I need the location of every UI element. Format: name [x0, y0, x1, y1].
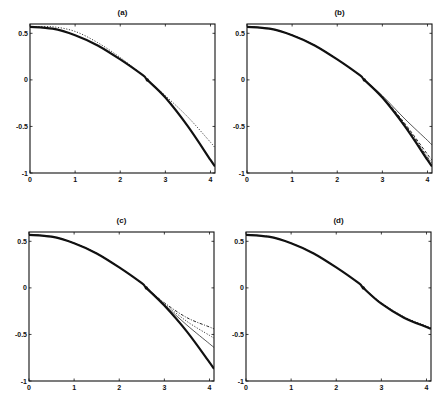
series-approx: [30, 26, 215, 147]
axes-box: [29, 232, 214, 381]
x-tick-label: 1: [72, 384, 76, 391]
y-tick-label: -1: [22, 170, 28, 177]
x-tick-label: 3: [380, 176, 384, 183]
x-tick-label: 2: [334, 384, 338, 391]
y-tick-label: 0: [240, 284, 244, 291]
x-tick-label: 0: [28, 176, 32, 183]
y-tick-label: -1: [238, 378, 244, 385]
x-tick-label: 1: [73, 176, 77, 183]
point-marker: [146, 78, 149, 81]
subplot-title: (a): [118, 8, 128, 17]
x-tick-label: 2: [118, 176, 122, 183]
series-approx-3: [247, 27, 432, 163]
subplot-b: (b)012340.50-0.5-1: [233, 8, 432, 183]
x-tick-label: 0: [27, 384, 31, 391]
y-tick-label: -1: [21, 378, 27, 385]
x-tick-label: 4: [209, 176, 213, 183]
x-tick-label: 4: [425, 384, 429, 391]
plot-lines: [29, 235, 214, 369]
series-approx-3: [29, 235, 214, 329]
axes-box: [30, 24, 215, 173]
point-marker: [145, 286, 148, 289]
y-tick-label: -0.5: [233, 123, 245, 130]
x-tick-label: 3: [162, 384, 166, 391]
y-tick-label: 0.5: [18, 30, 28, 37]
series-exact: [247, 27, 432, 167]
x-tick-label: 2: [335, 176, 339, 183]
subplot-c: (c)012340.50-0.5-1: [15, 216, 214, 391]
subplot-d: (d)012340.50-0.5-1: [232, 216, 431, 391]
point-marker: [362, 286, 365, 289]
x-tick-label: 0: [245, 176, 249, 183]
subplot-a: (a)012340.50-0.5-1: [16, 8, 215, 183]
x-tick-label: 2: [117, 384, 121, 391]
point-marker: [363, 78, 366, 81]
plot-lines: [247, 27, 432, 167]
series-exact: [246, 235, 431, 329]
axes-box: [246, 232, 431, 381]
x-tick-label: 1: [290, 176, 294, 183]
y-tick-label: 0.5: [17, 238, 27, 245]
y-tick-label: 0: [24, 76, 28, 83]
axes-box: [247, 24, 432, 173]
x-tick-label: 3: [163, 176, 167, 183]
y-tick-label: -1: [239, 170, 245, 177]
subplot-title: (b): [334, 8, 345, 17]
series-exact: [30, 27, 215, 167]
figure-2x2-line-charts: (a)012340.50-0.5-1 (b)012340.50-0.5-1 (c…: [0, 0, 444, 401]
subplot-title: (c): [117, 216, 127, 225]
x-tick-label: 0: [244, 384, 248, 391]
series-exact: [29, 235, 214, 369]
y-tick-label: -0.5: [16, 123, 28, 130]
y-tick-label: 0: [241, 76, 245, 83]
x-tick-label: 3: [379, 384, 383, 391]
y-tick-label: -0.5: [15, 331, 27, 338]
plot-lines: [30, 26, 215, 166]
subplot-title: (d): [333, 216, 344, 225]
x-tick-label: 4: [426, 176, 430, 183]
x-tick-label: 4: [208, 384, 212, 391]
series-approx-2: [246, 235, 431, 329]
x-tick-label: 1: [289, 384, 293, 391]
y-tick-label: -0.5: [232, 331, 244, 338]
series-approx-1: [246, 235, 431, 328]
y-tick-label: 0.5: [235, 30, 245, 37]
y-tick-label: 0.5: [234, 238, 244, 245]
series-approx-2: [247, 27, 432, 160]
y-tick-label: 0: [23, 284, 27, 291]
series-approx-2: [29, 235, 214, 338]
plot-lines: [246, 235, 431, 329]
